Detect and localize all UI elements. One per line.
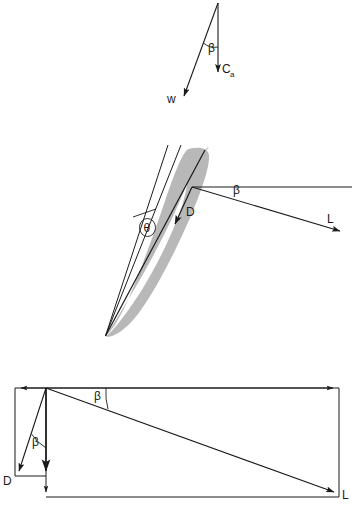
diagram-canvas: β C a w θ D <box>0 0 359 512</box>
angle-arc-beta-upper <box>106 388 108 409</box>
vector-drag-bottom <box>19 388 46 471</box>
label-beta-lower: β <box>32 435 39 449</box>
label-drag-mid: D <box>186 205 195 219</box>
panel-velocity-triangle: β C a w <box>166 3 235 106</box>
panel-force-parallelogram: β β D L <box>3 388 349 502</box>
label-ca-subscript: a <box>230 70 235 79</box>
label-lift-mid: L <box>327 212 334 226</box>
label-lift-bottom: L <box>342 488 349 502</box>
label-beta-upper: β <box>94 389 101 403</box>
diagram-figure: β C a w θ D <box>0 0 359 512</box>
blade-camber-line <box>106 150 206 336</box>
label-theta: θ <box>144 221 151 235</box>
vector-lift-bottom <box>46 388 334 492</box>
vector-lift-mid <box>192 187 340 231</box>
label-w: w <box>166 92 176 106</box>
label-beta-top: β <box>208 41 215 55</box>
label-drag-bottom: D <box>3 474 12 488</box>
label-beta-mid: β <box>233 183 240 197</box>
panel-blade-section: θ D β L <box>106 145 353 337</box>
